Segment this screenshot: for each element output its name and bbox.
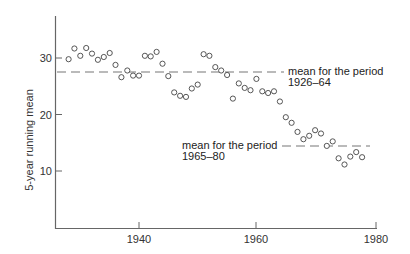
annotation-lower-line2: 1965–80 — [182, 150, 225, 162]
x-ticks — [139, 222, 376, 228]
data-point — [66, 57, 71, 62]
data-point — [154, 49, 159, 54]
data-point — [201, 52, 206, 57]
data-point — [178, 93, 183, 98]
data-point — [318, 131, 323, 136]
data-point — [160, 61, 165, 66]
data-point — [289, 120, 294, 125]
data-point — [236, 81, 241, 86]
data-point — [230, 96, 235, 101]
x-tick-label-1980: 1980 — [364, 233, 388, 245]
data-point — [213, 65, 218, 70]
data-point — [225, 72, 230, 77]
data-point — [148, 54, 153, 59]
data-point — [354, 150, 359, 155]
data-point — [330, 139, 335, 144]
data-point — [125, 68, 130, 73]
data-point — [95, 57, 100, 62]
data-point — [84, 45, 89, 50]
y-tick-label-10: 10 — [40, 165, 52, 177]
data-point — [219, 68, 224, 73]
data-point — [136, 73, 141, 78]
data-point — [342, 162, 347, 167]
data-point — [277, 99, 282, 104]
data-point — [78, 53, 83, 58]
data-point — [131, 73, 136, 78]
data-point — [283, 115, 288, 120]
data-point — [254, 76, 259, 81]
data-point — [360, 155, 365, 160]
x-tick-label-1960: 1960 — [244, 233, 268, 245]
data-point — [313, 128, 318, 133]
data-point — [107, 50, 112, 55]
x-tick-label-1940: 1940 — [127, 233, 151, 245]
data-point — [189, 86, 194, 91]
data-point — [336, 156, 341, 161]
data-point — [142, 53, 147, 58]
data-point — [271, 89, 276, 94]
data-point — [195, 82, 200, 87]
y-tick-label-20: 20 — [40, 109, 52, 121]
data-point — [348, 154, 353, 159]
data-point — [207, 53, 212, 58]
data-point — [324, 143, 329, 148]
data-point — [248, 88, 253, 93]
data-point — [113, 62, 118, 67]
data-point — [72, 46, 77, 51]
data-point — [89, 51, 94, 56]
running-mean-chart: 30 20 10 1940 1960 1980 5-year running m… — [0, 0, 410, 254]
data-point — [307, 133, 312, 138]
y-ticks — [56, 58, 62, 171]
data-point — [242, 85, 247, 90]
y-axis-title: 5-year running mean — [23, 89, 35, 191]
data-point — [295, 129, 300, 134]
data-point — [172, 90, 177, 95]
data-point — [183, 94, 188, 99]
data-point — [119, 75, 124, 80]
annotation-upper-line2: 1926–64 — [288, 76, 331, 88]
data-point — [260, 89, 265, 94]
data-point — [166, 74, 171, 79]
data-point — [301, 137, 306, 142]
data-point — [101, 54, 106, 59]
y-tick-label-30: 30 — [40, 52, 52, 64]
data-point — [266, 90, 271, 95]
